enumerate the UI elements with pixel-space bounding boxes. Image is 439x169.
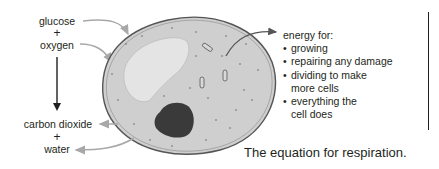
figure-caption: The equation for respiration. [244,145,407,160]
water-arrow [76,138,134,150]
list-item: growing [283,42,393,55]
list-item: repairing any damage [283,55,393,68]
oxygen-label: oxygen [34,39,80,51]
water-label: water [38,143,76,155]
glucose-arrow [83,20,128,34]
reaction-arrowhead-icon [53,103,61,111]
list-item: dividing to make more cells [283,69,367,95]
carbon-dioxide-label: carbon dioxide [18,118,98,130]
energy-heading: energy for: [283,29,393,42]
mitochondrion [200,77,204,88]
mitochondrion [223,70,227,81]
energy-uses: energy for: growing repairing any damage… [283,29,393,121]
plus-sign: + [50,27,64,39]
energy-list: growing repairing any damage dividing to… [283,42,393,121]
oxygen-arrow [80,44,112,62]
plus-sign: + [50,131,64,143]
list-item: everything the cell does [283,95,361,121]
vertical-divider [428,12,429,130]
